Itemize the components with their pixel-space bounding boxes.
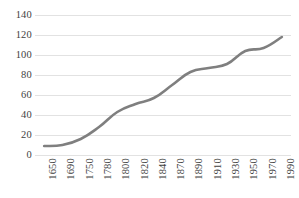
x-tick-label: 1950: [249, 158, 260, 180]
x-tick-label: 1780: [103, 158, 114, 180]
x-tick-label: 1840: [158, 158, 169, 180]
plot-area: [35, 15, 291, 155]
y-axis: 020406080100120140: [0, 0, 32, 198]
x-axis: 1650169017501780180018201840187018901910…: [35, 158, 291, 198]
y-tick-label: 60: [2, 90, 32, 101]
x-tick-label: 1870: [176, 158, 187, 180]
data-series-line: [35, 15, 291, 155]
x-tick-label: 1820: [140, 158, 151, 180]
x-tick-label: 1650: [48, 158, 59, 180]
x-tick-label: 1750: [85, 158, 96, 180]
y-tick-label: 100: [2, 50, 32, 61]
x-tick-label: 1990: [286, 158, 297, 180]
y-tick-label: 0: [2, 150, 32, 161]
chart-container: 020406080100120140 165016901750178018001…: [0, 0, 299, 198]
x-tick-label: 1910: [213, 158, 224, 180]
x-tick-label: 1930: [231, 158, 242, 180]
x-tick-label: 1970: [268, 158, 279, 180]
x-tick-label: 1690: [66, 158, 77, 180]
y-tick-label: 140: [2, 10, 32, 21]
gridline: [35, 155, 291, 156]
y-tick-label: 80: [2, 70, 32, 81]
x-tick-label: 1800: [121, 158, 132, 180]
x-tick-label: 1890: [194, 158, 205, 180]
y-tick-label: 40: [2, 110, 32, 121]
y-tick-label: 20: [2, 130, 32, 141]
series-path: [44, 37, 282, 146]
y-tick-label: 120: [2, 30, 32, 41]
